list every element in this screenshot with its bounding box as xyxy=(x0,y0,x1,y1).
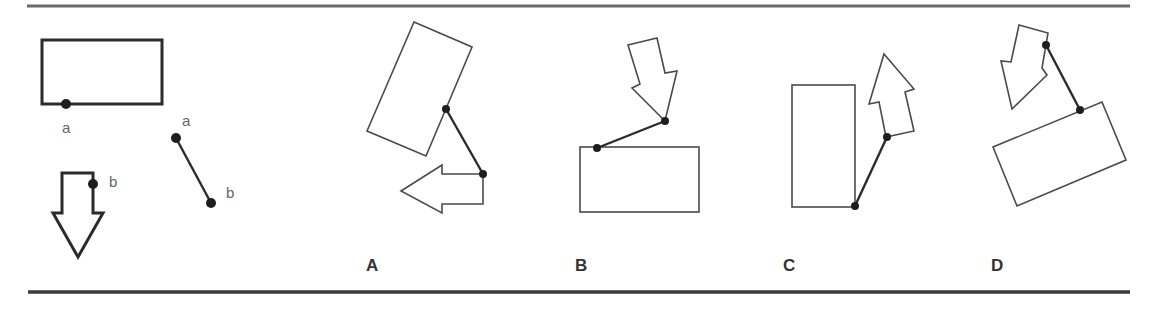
option-a-dot-2 xyxy=(479,170,487,178)
option-a-left-arrow xyxy=(401,165,483,213)
option-b-dot-2 xyxy=(661,117,669,125)
option-a[interactable]: A xyxy=(366,22,487,275)
connector-end-label: b xyxy=(226,184,234,201)
option-c-dot-2 xyxy=(883,133,891,141)
reference-connector: a b xyxy=(171,112,234,208)
option-a-label: A xyxy=(366,256,378,275)
option-a-rectangle xyxy=(367,22,472,156)
point-a-dot xyxy=(61,99,71,109)
connector-start-dot xyxy=(171,133,181,143)
point-b-dot xyxy=(88,179,98,189)
option-c-dot-1 xyxy=(851,202,859,210)
option-d[interactable]: D xyxy=(991,25,1126,275)
reference-down-arrow: b xyxy=(53,173,117,257)
option-a-dot-1 xyxy=(442,105,450,113)
point-b-label: b xyxy=(109,173,117,190)
option-c-up-arrow xyxy=(869,54,914,137)
option-d-down-arrow xyxy=(1001,25,1048,109)
connector-start-label: a xyxy=(182,112,191,129)
option-b-down-arrow xyxy=(628,38,677,121)
puzzle-figure: a b a b A B C xyxy=(0,0,1153,309)
option-b-label: B xyxy=(575,256,587,275)
point-a-label: a xyxy=(62,119,71,136)
option-c-label: C xyxy=(783,256,795,275)
option-b-dot-1 xyxy=(593,144,601,152)
option-c-rectangle xyxy=(792,85,855,207)
option-b-rectangle xyxy=(580,147,699,212)
option-d-label: D xyxy=(991,256,1003,275)
option-c[interactable]: C xyxy=(783,54,914,275)
reference-rectangle: a xyxy=(42,40,162,136)
option-d-dot-1 xyxy=(1042,41,1050,49)
option-d-dot-2 xyxy=(1076,106,1084,114)
connector-end-dot xyxy=(206,198,216,208)
option-b[interactable]: B xyxy=(575,38,699,275)
option-d-rectangle xyxy=(993,102,1126,206)
